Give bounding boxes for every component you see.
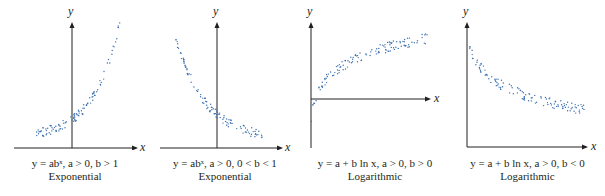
panel-exponential-decay: y x y = abˣ, a > 0, 0 < b < 1 Exponentia… [150, 0, 300, 196]
scatter-plot-logarithmic-decreasing [450, 0, 605, 150]
data-points [311, 33, 428, 122]
model-type-label: Logarithmic [450, 170, 605, 183]
y-axis-arrow-icon [309, 22, 314, 28]
x-axis-arrow-icon [132, 146, 138, 151]
x-axis-label: x [591, 139, 596, 154]
y-axis-arrow-icon [70, 22, 75, 28]
model-type-label: Exponential [150, 170, 300, 183]
scatter-plot-exponential-decay [150, 0, 300, 150]
y-axis-label: y [213, 4, 218, 19]
equation-label: y = abˣ, a > 0, 0 < b < 1 [150, 157, 300, 170]
panel-exponential-growth: y x y = abˣ, a > 0, b > 1 Exponential [0, 0, 150, 196]
x-axis-label: x [140, 140, 145, 155]
model-type-label: Logarithmic [300, 170, 450, 183]
data-points [36, 22, 121, 137]
x-axis-arrow-icon [277, 146, 283, 151]
y-axis-arrow-icon [215, 22, 220, 28]
x-axis-arrow-icon [425, 97, 431, 102]
equation-label: y = abˣ, a > 0, b > 1 [0, 157, 150, 170]
data-points [469, 46, 585, 114]
x-axis-arrow-icon [582, 145, 588, 150]
y-axis-arrow-icon [465, 22, 470, 28]
model-type-label: Exponential [0, 170, 150, 183]
y-axis-label: y [68, 4, 73, 19]
x-axis-label: x [285, 140, 290, 155]
scatter-plot-exponential-growth [0, 0, 150, 150]
y-axis-label: y [463, 4, 468, 19]
y-axis-label: y [307, 4, 312, 19]
data-points [175, 39, 262, 138]
scatter-plot-logarithmic-increasing [300, 0, 450, 150]
panel-logarithmic-increasing: y x y = a + b ln x, a > 0, b > 0 Logarit… [300, 0, 450, 196]
panel-logarithmic-decreasing: y x y = a + b ln x, a > 0, b < 0 Logarit… [450, 0, 605, 196]
equation-label: y = a + b ln x, a > 0, b < 0 [450, 157, 605, 170]
x-axis-label: x [434, 91, 439, 106]
equation-label: y = a + b ln x, a > 0, b > 0 [300, 157, 450, 170]
